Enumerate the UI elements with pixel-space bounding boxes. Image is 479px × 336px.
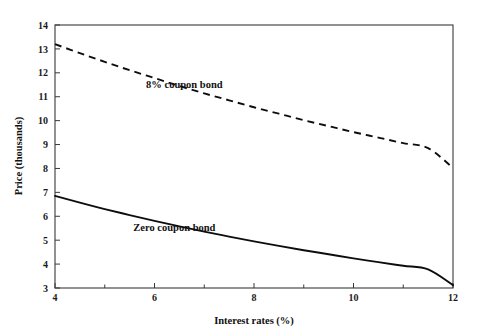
y-axis-tick-label: 10	[38, 115, 48, 126]
x-axis: 4681012	[53, 283, 459, 303]
y-axis-tick-label: 11	[39, 91, 48, 102]
y-axis-tick-label: 8	[43, 163, 48, 174]
x-axis-tick-label: 8	[252, 292, 257, 303]
x-axis-tick-label: 12	[448, 292, 458, 303]
y-axis-tick-label: 9	[43, 139, 48, 150]
y-axis: 34567891011121314	[38, 20, 60, 294]
y-axis-tick-label: 5	[43, 235, 48, 246]
y-axis-title: Price (thousands)	[13, 116, 25, 195]
x-axis-tick-label: 4	[53, 292, 58, 303]
y-axis-tick-label: 4	[43, 259, 48, 270]
y-axis-tick-label: 3	[43, 283, 48, 294]
y-axis-tick-label: 13	[38, 44, 48, 55]
y-axis-tick-label: 12	[38, 67, 48, 78]
data-series-group	[55, 44, 453, 285]
y-axis-tick-label: 6	[43, 211, 48, 222]
series-line-zero-coupon-bond	[55, 196, 453, 285]
chart-canvas: 34567891011121314 4681012 8% coupon bond…	[0, 0, 479, 336]
x-axis-title: Interest rates (%)	[214, 315, 294, 327]
y-axis-tick-label: 14	[38, 20, 48, 31]
y-axis-tick-label: 7	[43, 187, 48, 198]
series-annotation-label: 8% coupon bond	[146, 79, 223, 90]
bond-price-chart-figure: 34567891011121314 4681012 8% coupon bond…	[0, 0, 479, 336]
x-axis-tick-label: 6	[152, 292, 157, 303]
series-annotations: 8% coupon bondZero coupon bond	[133, 79, 222, 232]
series-annotation-label: Zero coupon bond	[133, 222, 215, 233]
x-axis-tick-label: 10	[349, 292, 359, 303]
series-line-8pct-coupon-bond	[55, 44, 453, 168]
